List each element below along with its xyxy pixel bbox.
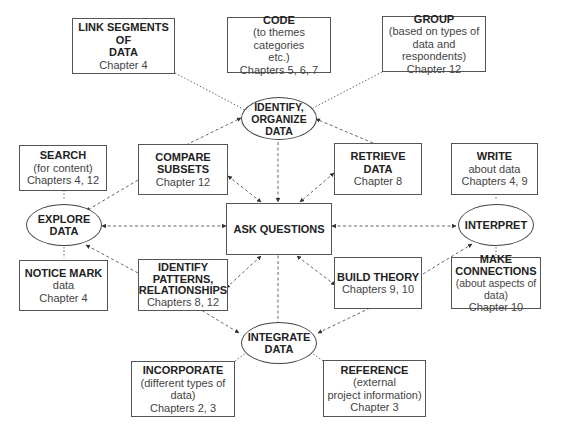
box-identify-patterns: IDENTIFY PATTERNS, RELATIONSHIPS Chapter…	[138, 259, 228, 311]
hub-identify-organize-data: IDENTIFY, ORGANIZE DATA	[241, 97, 317, 140]
box-make-connections: MAKE CONNECTIONS (about aspects of data)…	[451, 257, 541, 309]
box-group: GROUP (based on types of data and respon…	[382, 16, 486, 72]
box-incorporate: INCORPORATE (different types of data) Ch…	[131, 361, 235, 417]
edge-retrieve-ask	[300, 173, 334, 202]
box-reference: REFERENCE (external project information)…	[323, 360, 426, 417]
box-write: WRITE about data Chapters 4, 9	[451, 143, 538, 195]
hub-interpret: INTERPRET	[458, 204, 534, 246]
box-notice-mark: NOTICE MARK data Chapter 4	[19, 260, 108, 311]
edge-compare-identify	[186, 118, 241, 145]
edge-theory-ask	[297, 256, 335, 285]
hub-explore-data: EXPLORE DATA	[26, 204, 102, 246]
box-build-theory: BUILD THEORY Chapters 9, 10	[334, 257, 422, 309]
edge-patterns-ask	[226, 256, 261, 288]
edge-theory-integrate	[318, 308, 370, 333]
box-code: CODE (to themes categories etc.) Chapter…	[227, 17, 331, 73]
edge-compare-ask	[228, 176, 261, 202]
edge-link-identify	[175, 73, 245, 110]
hub-integrate-data: INTEGRATE DATA	[241, 322, 317, 364]
box-search: SEARCH (for content) Chapters 4, 12	[19, 145, 107, 191]
box-link-segments: LINK SEGMENTS OF DATA Chapter 4	[72, 18, 175, 74]
edge-group-identify	[313, 72, 382, 108]
box-ask-questions: ASK QUESTIONS	[226, 203, 332, 255]
box-retrieve-data: RETRIEVE DATA Chapter 8	[334, 143, 422, 195]
box-compare-subsets: COMPARE SUBSETS Chapter 12	[138, 144, 228, 195]
edge-retrieve-identify	[316, 119, 373, 143]
